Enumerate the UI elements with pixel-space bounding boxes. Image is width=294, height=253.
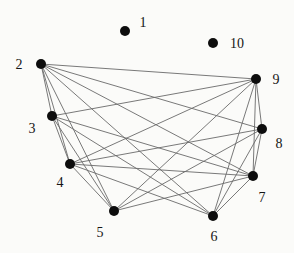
node-label-3: 3 [29, 121, 36, 136]
edge-8-9 [256, 79, 262, 129]
edge-2-9 [41, 64, 256, 79]
graph-node-10[interactable] [208, 38, 218, 48]
node-label-9: 9 [273, 72, 280, 87]
graph-node-3[interactable] [47, 111, 57, 121]
edge-2-8 [41, 64, 262, 129]
graph-node-9[interactable] [251, 74, 261, 84]
graph-node-5[interactable] [109, 206, 119, 216]
edge-4-8 [70, 129, 262, 164]
graph-node-4[interactable] [65, 159, 75, 169]
graph-node-7[interactable] [248, 171, 258, 181]
node-label-6: 6 [211, 229, 218, 244]
node-label-8: 8 [276, 136, 283, 151]
edge-2-5 [41, 64, 114, 211]
graph-node-8[interactable] [257, 124, 267, 134]
node-label-10: 10 [230, 36, 244, 51]
graph-figure: 12345678910 [0, 0, 294, 253]
graph-node-2[interactable] [36, 59, 46, 69]
edge-4-5 [70, 164, 114, 211]
edge-4-9 [70, 79, 256, 164]
node-label-4: 4 [57, 175, 64, 190]
edge-2-7 [41, 64, 253, 176]
edge-3-9 [52, 79, 256, 116]
edge-2-6 [41, 64, 213, 216]
node-label-5: 5 [97, 225, 104, 240]
graph-node-6[interactable] [208, 211, 218, 221]
node-label-2: 2 [16, 57, 23, 72]
node-label-7: 7 [259, 190, 266, 205]
edge-3-5 [52, 116, 114, 211]
node-label-1: 1 [140, 15, 147, 30]
graph-node-1[interactable] [120, 26, 130, 36]
network-graph: 12345678910 [0, 0, 294, 253]
